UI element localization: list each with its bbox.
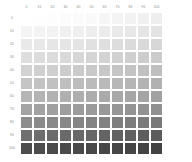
matrix-row: 60 — [5, 91, 162, 102]
matrix-row: 100 — [5, 143, 162, 154]
row-header-0: 0 — [5, 13, 19, 24]
matrix-cell-60-100 — [151, 91, 162, 102]
matrix-cell-30-70 — [112, 52, 123, 63]
matrix-cell-20-50 — [86, 39, 97, 50]
matrix-cell-60-50 — [86, 91, 97, 102]
matrix-row: 10 — [5, 26, 162, 37]
matrix-cell-50-20 — [47, 78, 58, 89]
row-header-40: 40 — [5, 65, 19, 76]
matrix-cell-40-40 — [73, 65, 84, 76]
matrix-cell-0-10 — [34, 13, 45, 24]
matrix-cell-90-10 — [34, 130, 45, 141]
matrix-cell-50-80 — [125, 78, 136, 89]
matrix-cell-20-70 — [112, 39, 123, 50]
matrix-cell-20-30 — [60, 39, 71, 50]
matrix-cell-10-90 — [138, 26, 149, 37]
column-header-row: 0102030405060708090100 — [5, 4, 162, 11]
matrix-cell-90-60 — [99, 130, 110, 141]
matrix-cell-10-20 — [47, 26, 58, 37]
matrix-cell-10-10 — [34, 26, 45, 37]
matrix-cell-70-70 — [112, 104, 123, 115]
matrix-cell-0-60 — [99, 13, 110, 24]
matrix-cell-50-90 — [138, 78, 149, 89]
matrix-cell-0-80 — [125, 13, 136, 24]
matrix-cell-100-0 — [21, 143, 32, 154]
column-header-30: 30 — [60, 4, 71, 11]
matrix-cell-20-90 — [138, 39, 149, 50]
matrix-cell-30-80 — [125, 52, 136, 63]
matrix-cell-50-10 — [34, 78, 45, 89]
matrix-cell-0-90 — [138, 13, 149, 24]
matrix-cell-70-80 — [125, 104, 136, 115]
matrix-cell-0-30 — [60, 13, 71, 24]
matrix-cell-90-50 — [86, 130, 97, 141]
matrix-cell-10-80 — [125, 26, 136, 37]
matrix-cell-70-50 — [86, 104, 97, 115]
column-header-10: 10 — [34, 4, 45, 11]
matrix-cell-10-50 — [86, 26, 97, 37]
matrix-cell-60-20 — [47, 91, 58, 102]
matrix-cell-30-90 — [138, 52, 149, 63]
matrix-cell-30-20 — [47, 52, 58, 63]
matrix-cell-20-40 — [73, 39, 84, 50]
matrix-table: 0102030405060708090100 01020304050607080… — [3, 2, 164, 156]
matrix-cell-80-100 — [151, 117, 162, 128]
column-header-40: 40 — [73, 4, 84, 11]
column-header-0: 0 — [21, 4, 32, 11]
matrix-cell-10-60 — [99, 26, 110, 37]
matrix-cell-20-0 — [21, 39, 32, 50]
matrix-cell-10-30 — [60, 26, 71, 37]
matrix-cell-50-0 — [21, 78, 32, 89]
matrix-cell-20-100 — [151, 39, 162, 50]
row-header-20: 20 — [5, 39, 19, 50]
matrix-cell-0-50 — [86, 13, 97, 24]
matrix-row: 70 — [5, 104, 162, 115]
column-header-100: 100 — [151, 4, 162, 11]
matrix-cell-70-30 — [60, 104, 71, 115]
matrix-body: 0102030405060708090100 — [5, 13, 162, 154]
matrix-row: 90 — [5, 130, 162, 141]
matrix-header: 0102030405060708090100 — [5, 4, 162, 11]
matrix-cell-40-90 — [138, 65, 149, 76]
matrix-cell-100-40 — [73, 143, 84, 154]
row-header-60: 60 — [5, 91, 19, 102]
matrix-cell-100-30 — [60, 143, 71, 154]
matrix-cell-80-90 — [138, 117, 149, 128]
matrix-cell-100-10 — [34, 143, 45, 154]
matrix-cell-60-30 — [60, 91, 71, 102]
matrix-row: 30 — [5, 52, 162, 63]
matrix-cell-100-80 — [125, 143, 136, 154]
matrix-cell-80-10 — [34, 117, 45, 128]
matrix-cell-0-70 — [112, 13, 123, 24]
matrix-cell-90-80 — [125, 130, 136, 141]
column-header-90: 90 — [138, 4, 149, 11]
matrix-row: 40 — [5, 65, 162, 76]
matrix-cell-30-40 — [73, 52, 84, 63]
matrix-cell-80-20 — [47, 117, 58, 128]
matrix-row: 80 — [5, 117, 162, 128]
matrix-row: 20 — [5, 39, 162, 50]
matrix-cell-40-70 — [112, 65, 123, 76]
column-header-20: 20 — [47, 4, 58, 11]
grayscale-matrix-chart: 0102030405060708090100 01020304050607080… — [0, 0, 192, 162]
matrix-cell-10-70 — [112, 26, 123, 37]
matrix-cell-70-10 — [34, 104, 45, 115]
matrix-cell-30-100 — [151, 52, 162, 63]
matrix-cell-60-0 — [21, 91, 32, 102]
matrix-cell-80-50 — [86, 117, 97, 128]
matrix-cell-90-30 — [60, 130, 71, 141]
matrix-cell-50-40 — [73, 78, 84, 89]
matrix-cell-40-50 — [86, 65, 97, 76]
matrix-cell-0-40 — [73, 13, 84, 24]
matrix-cell-40-10 — [34, 65, 45, 76]
matrix-cell-100-60 — [99, 143, 110, 154]
matrix-cell-10-100 — [151, 26, 162, 37]
matrix-cell-80-70 — [112, 117, 123, 128]
matrix-cell-80-60 — [99, 117, 110, 128]
matrix-row: 50 — [5, 78, 162, 89]
row-header-50: 50 — [5, 78, 19, 89]
row-header-100: 100 — [5, 143, 19, 154]
matrix-cell-60-60 — [99, 91, 110, 102]
row-header-80: 80 — [5, 117, 19, 128]
matrix-cell-40-0 — [21, 65, 32, 76]
